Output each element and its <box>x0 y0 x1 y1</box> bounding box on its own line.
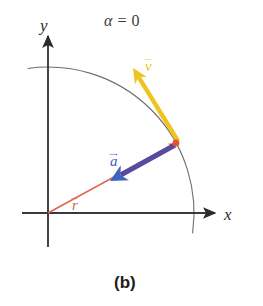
vector-diagram-canvas <box>0 0 263 306</box>
velocity-label-text: v <box>145 58 152 74</box>
figure-container: α=0 y x v a r ( <box>0 0 263 306</box>
alpha-symbol: α <box>104 12 113 29</box>
figure-caption: (b) <box>114 274 136 291</box>
radius-label-text: r <box>72 197 78 213</box>
radius-vector-label: r <box>72 198 263 213</box>
acceleration-label-text: a <box>110 153 118 169</box>
velocity-vector <box>133 68 178 141</box>
y-axis-label: y <box>40 17 48 34</box>
acceleration-vector-label: a <box>110 154 263 169</box>
alpha-value: 0 <box>131 12 140 29</box>
particle-point <box>173 140 180 147</box>
alpha-relation: = <box>117 12 127 29</box>
velocity-vector-label: v <box>145 59 263 74</box>
alpha-equation-label: α=0 <box>104 13 140 29</box>
